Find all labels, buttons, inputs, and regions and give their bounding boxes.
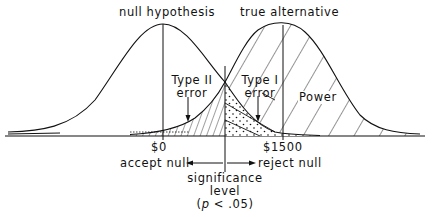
accept-null-label: accept null	[120, 157, 190, 170]
alt-mean-label: $1500	[263, 141, 303, 154]
significance-level-label: significance level (p < .05)	[185, 172, 265, 211]
type1-label: Type I error	[240, 74, 280, 100]
null-hypothesis-label: null hypothesis	[119, 6, 215, 19]
reject-null-label: reject null	[258, 157, 322, 170]
arrow-right-icon	[249, 161, 256, 166]
type2-label: Type II error	[170, 74, 214, 100]
true-alternative-label: true alternative	[240, 6, 339, 19]
null-mean-label: $0	[151, 141, 167, 154]
power-label: Power	[298, 91, 338, 104]
